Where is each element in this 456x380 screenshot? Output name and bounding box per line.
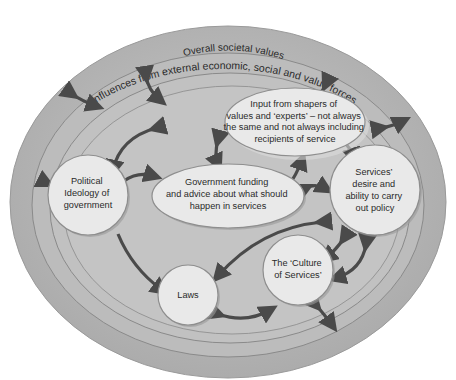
services-circle: [330, 145, 420, 235]
node-funding: Government funding and advice about what…: [152, 164, 306, 230]
laws-text: Laws: [177, 290, 199, 300]
node-services: Services’ desire and ability to carry ou…: [330, 145, 422, 237]
societal-influences-diagram: Influences from external economic, socia…: [0, 0, 456, 380]
